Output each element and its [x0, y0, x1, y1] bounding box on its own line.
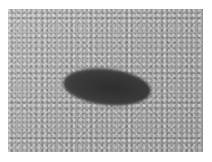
- skin-photo: [8, 9, 203, 152]
- dark-lesion: [61, 64, 152, 109]
